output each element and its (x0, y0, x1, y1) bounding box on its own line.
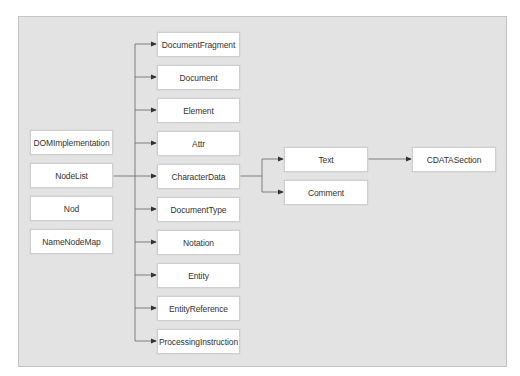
node-text: Text (284, 147, 368, 172)
node-element: Element (157, 98, 240, 123)
node-document: Document (157, 65, 240, 90)
node-comment: Comment (284, 180, 368, 205)
node-namenodemap: NameNodeMap (30, 229, 113, 254)
node-characterdata: CharacterData (157, 164, 240, 189)
connector-lines (0, 0, 520, 376)
node-entityreference: EntityReference (157, 296, 240, 321)
node-domimplementation: DOMImplementation (30, 130, 113, 155)
node-nod: Nod (30, 196, 113, 221)
node-attr: Attr (157, 131, 240, 156)
node-documentfragment: DocumentFragment (157, 32, 240, 57)
node-cdatasection: CDATASection (412, 147, 496, 172)
node-documenttype: DocumentType (157, 197, 240, 222)
node-entity: Entity (157, 263, 240, 288)
node-nodelist: NodeList (30, 163, 113, 188)
node-notation: Notation (157, 230, 240, 255)
node-processinginstruction: ProcessingInstruction (157, 329, 240, 354)
